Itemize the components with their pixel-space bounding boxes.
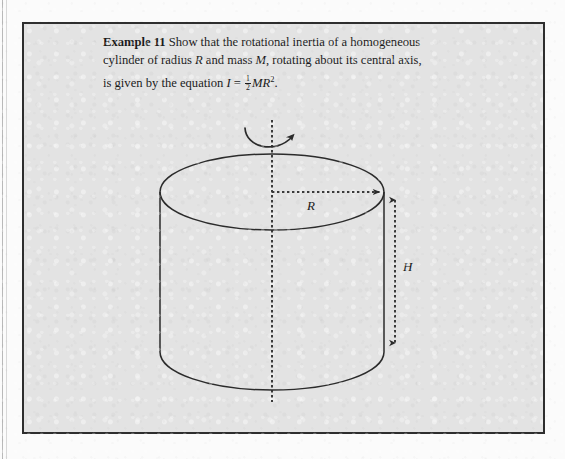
- page-margin-rule: [2, 0, 3, 459]
- radius-label: R: [307, 198, 315, 214]
- cylinder-diagram: [24, 24, 543, 432]
- page-margin-rule-secondary: [6, 0, 7, 459]
- rotation-direction-arrow: [245, 128, 292, 147]
- height-label: H: [403, 259, 412, 275]
- figure-panel: Example 11 Show that the rotational iner…: [22, 22, 545, 434]
